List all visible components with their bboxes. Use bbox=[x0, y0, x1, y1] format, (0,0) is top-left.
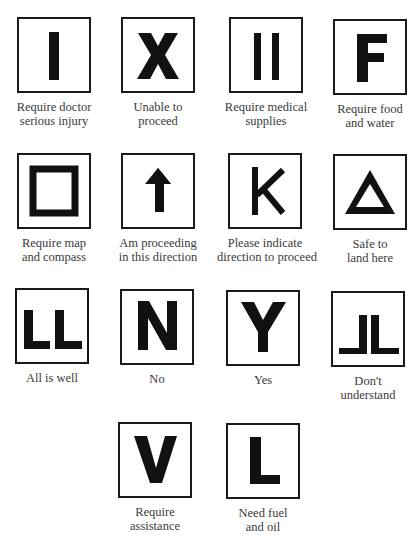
signal-indicate-direction: Please indicate direction to proceed bbox=[217, 153, 313, 264]
signal-caption: Yes bbox=[215, 373, 311, 387]
signal-no: No bbox=[109, 289, 205, 386]
signal-box bbox=[228, 153, 302, 229]
letter-f-icon bbox=[335, 21, 405, 93]
signal-caption: Require medical supplies bbox=[218, 100, 314, 128]
signal-caption: No bbox=[109, 372, 205, 386]
signal-caption: Unable to proceed bbox=[110, 100, 206, 128]
signal-require-map: Require map and compass bbox=[6, 153, 102, 264]
signal-caption: Require food and water bbox=[322, 102, 417, 130]
signal-box bbox=[226, 290, 300, 366]
signal-box bbox=[17, 17, 91, 93]
signal-box bbox=[17, 153, 91, 229]
mirrored-l-icon bbox=[333, 293, 403, 365]
letter-y-icon bbox=[228, 292, 298, 364]
signal-caption: Am proceeding in this direction bbox=[110, 236, 206, 264]
signal-require-food: Require food and water bbox=[322, 19, 417, 130]
signal-caption: Safe to land here bbox=[322, 237, 417, 265]
square-icon bbox=[19, 155, 89, 227]
letter-l-icon bbox=[228, 425, 298, 497]
signal-am-proceeding: Am proceeding in this direction bbox=[110, 153, 206, 264]
signal-yes: Yes bbox=[215, 290, 311, 387]
signal-safe-to-land: Safe to land here bbox=[322, 154, 417, 265]
signal-box bbox=[226, 423, 300, 499]
signal-unable-to-proceed: Unable to proceed bbox=[110, 17, 206, 128]
letter-v-icon bbox=[120, 424, 190, 496]
signal-box bbox=[331, 291, 405, 367]
signal-box bbox=[333, 154, 407, 230]
double-l-icon bbox=[17, 290, 87, 362]
signal-box bbox=[15, 288, 89, 364]
x-icon bbox=[123, 19, 193, 91]
signal-require-medical-supplies: Require medical supplies bbox=[218, 17, 314, 128]
signal-all-is-well: All is well bbox=[4, 288, 100, 385]
signal-dont-understand: Don't understand bbox=[320, 291, 416, 402]
signal-box bbox=[229, 17, 303, 93]
signal-caption: Need fuel and oil bbox=[215, 506, 311, 534]
letter-k-icon bbox=[230, 155, 300, 227]
signal-require-assistance: Require assistance bbox=[107, 422, 203, 533]
signal-box bbox=[121, 153, 195, 229]
signal-box bbox=[121, 17, 195, 93]
signal-box bbox=[120, 289, 194, 365]
triangle-icon bbox=[335, 156, 405, 228]
single-bar-icon bbox=[19, 19, 89, 91]
arrow-up-icon bbox=[123, 155, 193, 227]
signal-caption: Require map and compass bbox=[6, 236, 102, 264]
signal-box bbox=[118, 422, 192, 498]
signal-caption: All is well bbox=[4, 371, 100, 385]
signal-box bbox=[333, 19, 407, 95]
signal-caption: Require assistance bbox=[107, 505, 203, 533]
letter-n-icon bbox=[122, 291, 192, 363]
signal-caption: Require doctor serious injury bbox=[6, 100, 102, 128]
signal-require-doctor: Require doctor serious injury bbox=[6, 17, 102, 128]
signal-caption: Don't understand bbox=[320, 374, 416, 402]
signal-need-fuel: Need fuel and oil bbox=[215, 423, 311, 534]
double-bar-icon bbox=[231, 19, 301, 91]
signal-caption: Please indicate direction to proceed bbox=[217, 236, 313, 264]
